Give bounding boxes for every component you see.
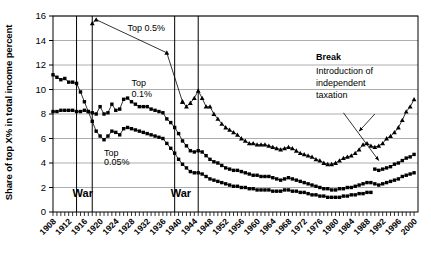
data-point: [98, 105, 101, 108]
data-point: [185, 166, 188, 169]
data-point: [287, 176, 290, 179]
annotation-break: Break: [316, 52, 342, 62]
data-point: [405, 174, 408, 177]
data-point: [302, 181, 305, 184]
data-point: [196, 88, 201, 92]
data-point: [310, 193, 313, 196]
data-point: [397, 161, 400, 164]
data-point: [122, 98, 125, 101]
data-point: [55, 76, 58, 79]
data-point: [118, 107, 121, 110]
data-point: [142, 105, 145, 108]
x-tick-label: 1968: [273, 216, 294, 237]
data-point: [173, 126, 176, 129]
data-point: [153, 134, 156, 137]
x-tick-label: 2000: [399, 216, 420, 237]
data-point: [192, 96, 197, 100]
data-point: [208, 177, 211, 180]
data-point: [164, 50, 169, 54]
data-point: [299, 191, 302, 194]
data-point: [377, 183, 380, 186]
data-point: [291, 189, 294, 192]
data-point: [177, 158, 180, 161]
data-point: [361, 192, 364, 195]
data-point: [193, 150, 196, 153]
line-chart: 0246810121416190819121916192019241928193…: [0, 0, 431, 259]
data-point: [149, 133, 152, 136]
x-tick-label: 1948: [194, 216, 215, 237]
data-point: [306, 192, 309, 195]
x-tick-label: 1940: [163, 216, 184, 237]
data-point: [189, 149, 192, 152]
data-point: [71, 109, 74, 112]
data-point: [251, 174, 254, 177]
y-tick-label: 0: [41, 206, 46, 217]
data-point: [357, 183, 360, 186]
data-point: [400, 118, 405, 122]
x-tick-label: 1980: [320, 216, 341, 237]
data-point: [412, 153, 415, 156]
data-point: [240, 186, 243, 189]
data-point: [142, 131, 145, 134]
data-point: [389, 180, 392, 183]
data-point: [310, 183, 313, 186]
data-point: [165, 117, 168, 120]
data-point: [51, 110, 54, 113]
data-point: [314, 185, 317, 188]
data-point: [59, 78, 62, 81]
data-point: [197, 149, 200, 152]
data-point: [122, 127, 125, 130]
data-point: [350, 193, 353, 196]
data-point: [63, 77, 66, 80]
data-point: [385, 166, 388, 169]
data-point: [63, 109, 66, 112]
data-point: [220, 164, 223, 167]
data-point: [75, 110, 78, 113]
data-point: [138, 105, 141, 108]
data-point: [279, 178, 282, 181]
data-point: [161, 111, 164, 114]
data-point: [200, 172, 203, 175]
data-point: [106, 111, 109, 114]
data-point: [365, 191, 368, 194]
data-point: [271, 189, 274, 192]
data-point: [87, 110, 90, 113]
data-point: [157, 110, 160, 113]
data-point: [149, 107, 152, 110]
series-line: [375, 154, 414, 170]
data-point: [248, 187, 251, 190]
data-point: [181, 163, 184, 166]
data-point: [231, 130, 236, 134]
data-point: [326, 187, 329, 190]
data-point: [271, 176, 274, 179]
annotation-war1: War: [73, 187, 94, 199]
data-point: [259, 188, 262, 191]
data-point: [248, 172, 251, 175]
data-point: [67, 109, 70, 112]
data-point: [381, 167, 384, 170]
data-point: [235, 132, 240, 136]
data-point: [165, 142, 168, 145]
y-tick-label: 16: [35, 10, 46, 21]
data-point: [279, 189, 282, 192]
data-point: [94, 112, 97, 115]
x-tick-label: 1992: [367, 216, 388, 237]
data-point: [322, 187, 325, 190]
data-point: [75, 82, 78, 85]
annotation-top01: Top: [131, 78, 146, 88]
data-point: [318, 194, 321, 197]
x-tick-label: 1928: [116, 216, 137, 237]
data-point: [91, 111, 94, 114]
data-point: [251, 187, 254, 190]
data-point: [330, 196, 333, 199]
data-point: [369, 181, 372, 184]
x-tick-label: 1952: [210, 216, 231, 237]
data-point: [283, 177, 286, 180]
data-point: [334, 196, 337, 199]
data-point: [180, 99, 185, 103]
data-point: [224, 182, 227, 185]
x-tick-label: 1908: [37, 216, 58, 237]
data-point: [365, 181, 368, 184]
data-point: [200, 96, 205, 100]
data-point: [204, 154, 207, 157]
